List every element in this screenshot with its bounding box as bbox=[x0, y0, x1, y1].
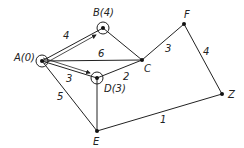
weight-a-c: 6 bbox=[98, 48, 104, 59]
weight-c-f: 3 bbox=[165, 43, 171, 54]
edge-c-f bbox=[142, 24, 184, 60]
weight-a-e: 5 bbox=[57, 91, 63, 102]
weight-e-z: 1 bbox=[160, 114, 166, 125]
label-b: B(4) bbox=[93, 7, 114, 18]
weight-a-d: 3 bbox=[66, 73, 72, 84]
weight-f-z: 4 bbox=[203, 46, 209, 57]
label-e: E bbox=[93, 136, 100, 147]
edge-a-e bbox=[42, 61, 97, 131]
graph-diagram: A(0) B(4) C D(3) E F Z 4 6 3 5 2 3 4 1 bbox=[0, 0, 244, 148]
label-d: D(3) bbox=[104, 83, 126, 94]
label-a: A(0) bbox=[13, 52, 35, 63]
weight-a-b: 4 bbox=[63, 30, 69, 41]
edge-f-z bbox=[184, 24, 222, 94]
node-f bbox=[182, 22, 186, 26]
node-z bbox=[220, 92, 224, 96]
edge-d-c bbox=[97, 60, 142, 78]
node-e bbox=[95, 129, 99, 133]
node-c bbox=[140, 58, 144, 62]
label-f: F bbox=[184, 9, 190, 20]
label-z: Z bbox=[227, 89, 236, 100]
edge-b-c bbox=[103, 28, 142, 60]
label-c: C bbox=[144, 63, 151, 74]
edge-a-b bbox=[42, 28, 103, 64]
edge-e-z bbox=[97, 94, 222, 131]
node-b bbox=[97, 22, 109, 34]
weight-d-c: 2 bbox=[123, 71, 129, 82]
graph-svg: A(0) B(4) C D(3) E F Z 4 6 3 5 2 3 4 1 bbox=[0, 0, 244, 148]
edge-a-c bbox=[42, 60, 142, 61]
